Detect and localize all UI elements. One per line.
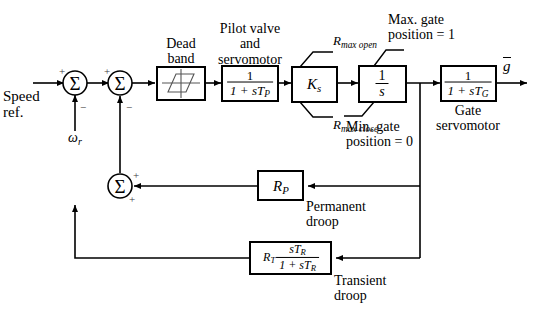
sum-3-sigma: Σ [114,177,125,196]
integrator-text: 1 s [376,69,389,99]
gate-servomotor-transfer-function: 1 1 + sTG [445,69,492,100]
wire-rt-to-sum3 [75,205,250,258]
gain-ks-text: Ks [307,77,321,94]
gate-servomotor-caption: Gate servomotor [436,103,500,134]
omega-r-label: ωr [68,130,82,148]
dead-band-caption: Dead band [166,36,196,67]
sum-2-sigma: Σ [114,74,125,93]
pilot-valve-transfer-function: 1 1 + sTP [227,69,273,100]
leader-rmax-open [300,52,333,67]
max-gate-position-label: Max. gate position = 1 [388,12,455,42]
sum-3-plus-sign-bottom: + [129,194,135,205]
leader-rmax-close [300,102,333,117]
sum-2-plus-sign: + [104,66,110,77]
sum-2-minus-sign: − [126,102,132,113]
permanent-droop-caption: Permanent droop [306,199,366,229]
output-g-bar-label: g [503,57,511,74]
leader-min-gate [344,102,374,116]
min-gate-position-label: Min. gate position = 0 [346,119,413,149]
sum-1-minus-sign: − [80,102,86,113]
leader-max-gate [374,50,404,66]
sum-3-plus-sign-right: + [133,170,139,181]
sum-1-plus-sign: + [59,66,65,77]
speed-ref-label: Speed ref. [3,88,40,120]
block-diagram-canvas: Speed ref. ωr Σ Σ Σ + − + − + + Dead ban… [0,0,536,318]
transient-droop-caption: Transient droop [334,273,386,303]
sum-1-sigma: Σ [69,74,80,93]
rmax-open-label: Rmax open [333,34,377,50]
pilot-valve-caption: Pilot valve and servomotor [218,21,282,67]
transient-droop-text: RT sTR 1 + sTR [263,243,319,273]
permanent-droop-text: RP [273,179,289,196]
